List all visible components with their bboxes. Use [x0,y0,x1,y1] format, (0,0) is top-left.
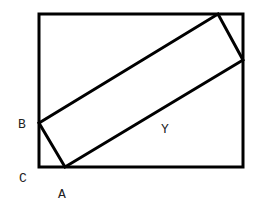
diagram-canvas [0,0,265,210]
inner-rotated-rectangle [39,14,243,167]
label-c: C [19,172,27,185]
label-y: Y [161,123,169,136]
label-b: B [18,118,26,131]
outer-rectangle [39,14,243,167]
label-a: A [58,188,66,201]
